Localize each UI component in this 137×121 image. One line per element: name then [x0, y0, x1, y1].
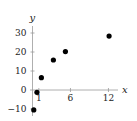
- data-point: [31, 107, 36, 112]
- y-tick-label: 10: [15, 66, 27, 76]
- data-point: [34, 90, 39, 95]
- y-tick-label: −10: [8, 104, 27, 114]
- data-point: [63, 49, 68, 54]
- x-tick-label: 6: [68, 93, 74, 103]
- data-point: [106, 33, 111, 38]
- data-point: [39, 75, 44, 80]
- y-tick-label: 0: [21, 85, 27, 95]
- y-tick-label: 30: [15, 28, 27, 38]
- y-axis-label: y: [29, 12, 36, 23]
- x-tick-label: 12: [103, 93, 114, 103]
- x-axis-label: x: [122, 84, 128, 95]
- scatter-chart: x y 1612 −100102030: [0, 0, 137, 121]
- y-tick-label: 20: [15, 47, 27, 57]
- data-point: [51, 57, 56, 62]
- y-ticks: −100102030: [8, 28, 35, 114]
